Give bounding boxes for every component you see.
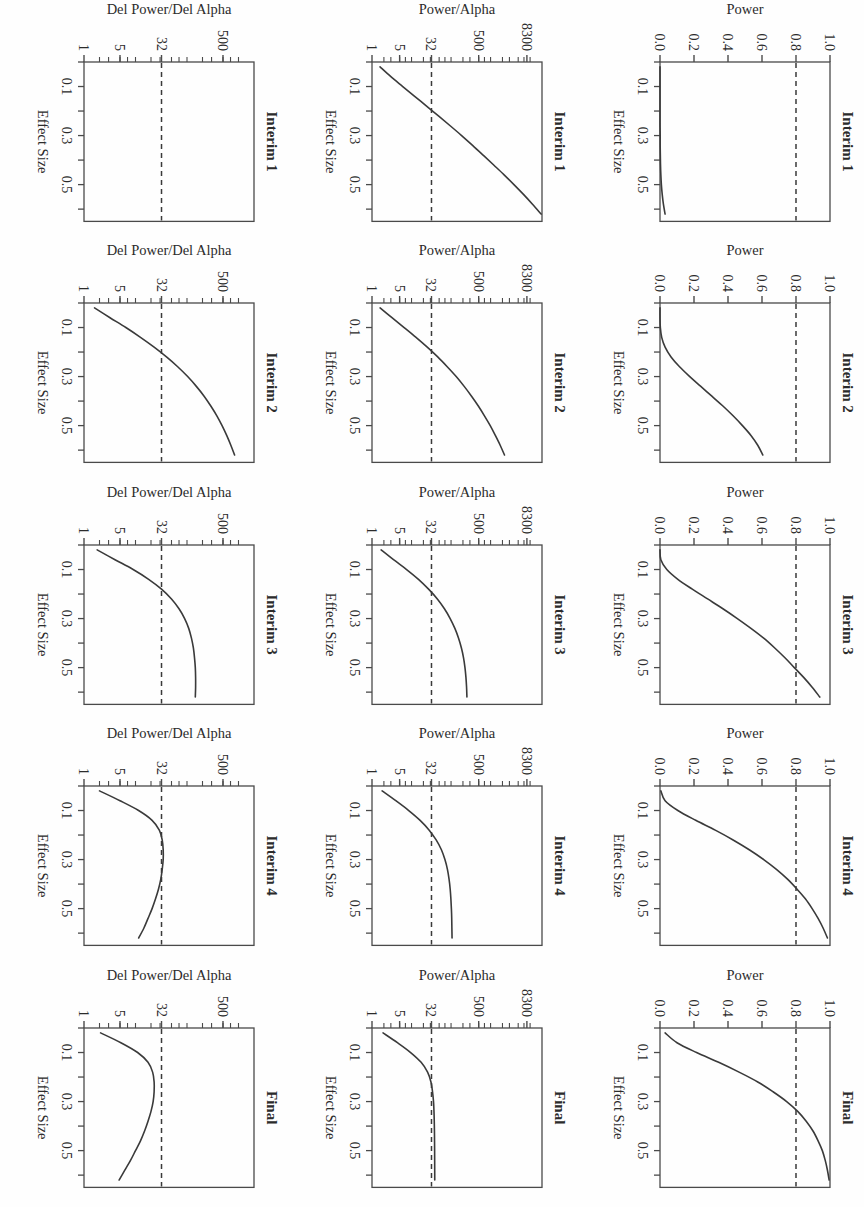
y-tick-label: 0.4	[720, 999, 735, 1016]
data-curve	[382, 791, 452, 938]
plot-frame	[84, 786, 254, 945]
y-tick-label: 0.0	[652, 275, 667, 292]
x-axis-label: Effect Size	[35, 593, 51, 657]
chart-panel: 0.10.30.51532500FinalEffect SizeDel Powe…	[0, 966, 288, 1207]
panel-title: Interim 1	[552, 112, 568, 172]
x-tick-label: 0.5	[635, 659, 650, 676]
panel-title: Interim 2	[552, 353, 568, 413]
y-tick-label: 32	[423, 278, 438, 292]
data-curve	[381, 550, 467, 697]
x-axis-label: Effect Size	[611, 110, 627, 174]
panel-row-1: 0.10.30.50.00.20.40.60.81.0Interim 1Effe…	[576, 0, 864, 1207]
y-tick-label: 0.0	[652, 516, 667, 533]
x-tick-label: 0.1	[59, 802, 74, 819]
plot-frame	[660, 303, 830, 462]
y-tick-label: 1	[364, 768, 379, 775]
plot-frame	[372, 62, 542, 221]
y-tick-label: 0.4	[720, 516, 735, 533]
chart-panel: 0.10.30.515325008300Interim 2Effect Size…	[288, 241, 576, 482]
chart-panel: 0.10.30.51532500Interim 3Effect SizeDel …	[0, 483, 288, 724]
plot-frame	[372, 545, 542, 704]
panel-title: Interim 1	[840, 112, 856, 172]
x-tick-label: 0.3	[635, 851, 650, 868]
x-tick-label: 0.1	[635, 1043, 650, 1060]
data-curve	[100, 791, 164, 938]
chart-panel: 0.10.30.51532500Interim 4Effect SizeDel …	[0, 724, 288, 965]
x-tick-label: 0.5	[347, 417, 362, 434]
panel-title: Interim 2	[840, 353, 856, 413]
chart-panel: 0.10.30.50.00.20.40.60.81.0Interim 4Effe…	[576, 724, 864, 965]
y-tick-label: 1	[76, 44, 91, 51]
y-axis-label: Del Power/Del Alpha	[107, 242, 232, 258]
panel-title: Interim 3	[840, 594, 856, 654]
y-tick-label: 8300	[519, 506, 534, 534]
panel-title: Interim 1	[264, 112, 280, 172]
plot-frame	[372, 303, 542, 462]
y-tick-label: 32	[154, 278, 169, 292]
x-tick-label: 0.3	[347, 127, 362, 144]
data-curve	[97, 550, 196, 697]
y-tick-label: 5	[112, 1010, 127, 1017]
x-axis-label: Effect Size	[323, 1075, 339, 1139]
chart-panel: 0.10.30.50.00.20.40.60.81.0Interim 2Effe…	[576, 241, 864, 482]
y-tick-label: 0.6	[754, 516, 769, 533]
plot-frame	[84, 62, 254, 221]
y-tick-label: 500	[215, 271, 230, 292]
y-tick-label: 0.8	[788, 34, 803, 51]
y-tick-label: 0.8	[788, 275, 803, 292]
y-tick-label: 32	[423, 1003, 438, 1017]
y-tick-label: 5	[392, 527, 407, 534]
y-tick-label: 0.8	[788, 516, 803, 533]
panel-row-2: 0.10.30.515325008300Interim 1Effect Size…	[288, 0, 576, 1207]
y-tick-label: 32	[154, 37, 169, 51]
y-tick-label: 8300	[519, 264, 534, 292]
y-tick-label: 32	[423, 37, 438, 51]
panel-grid: 0.10.30.50.00.20.40.60.81.0Interim 1Effe…	[0, 0, 864, 1207]
y-tick-label: 5	[392, 1010, 407, 1017]
y-tick-label: 0.6	[754, 275, 769, 292]
y-tick-label: 0.4	[720, 34, 735, 51]
x-tick-label: 0.5	[347, 1141, 362, 1158]
y-tick-label: 500	[215, 754, 230, 775]
x-tick-label: 0.3	[635, 1092, 650, 1109]
data-curve	[383, 1032, 435, 1179]
y-tick-label: 0.2	[686, 516, 701, 533]
y-tick-label: 1.0	[822, 516, 837, 533]
y-tick-label: 500	[471, 996, 486, 1017]
y-tick-label: 32	[154, 761, 169, 775]
x-tick-label: 0.3	[347, 368, 362, 385]
x-tick-label: 0.3	[635, 127, 650, 144]
y-tick-label: 0.2	[686, 275, 701, 292]
y-axis-label: Del Power/Del Alpha	[107, 967, 232, 983]
plot-frame	[372, 786, 542, 945]
chart-panel: 0.10.30.51532500Interim 2Effect SizeDel …	[0, 241, 288, 482]
y-tick-label: 500	[471, 271, 486, 292]
panel-title: Interim 3	[264, 594, 280, 654]
y-axis-label: Power/Alpha	[419, 242, 496, 258]
y-tick-label: 0.6	[754, 758, 769, 775]
y-tick-label: 1.0	[822, 34, 837, 51]
y-tick-label: 0.8	[788, 999, 803, 1016]
x-tick-label: 0.5	[59, 417, 74, 434]
y-tick-label: 0.6	[754, 999, 769, 1016]
chart-panel: 0.10.30.515325008300Interim 1Effect Size…	[288, 0, 576, 241]
x-tick-label: 0.3	[347, 851, 362, 868]
x-tick-label: 0.1	[347, 561, 362, 578]
panel-title: Final	[840, 1091, 856, 1124]
y-tick-label: 0.0	[652, 34, 667, 51]
x-tick-label: 0.5	[347, 176, 362, 193]
y-axis-label: Power/Alpha	[419, 1, 496, 17]
y-tick-label: 1	[76, 285, 91, 292]
x-axis-label: Effect Size	[611, 1075, 627, 1139]
data-curve	[95, 308, 235, 455]
y-axis-label: Power	[726, 725, 763, 741]
x-axis-label: Effect Size	[35, 1075, 51, 1139]
plot-frame	[660, 786, 830, 945]
x-tick-label: 0.1	[635, 561, 650, 578]
x-tick-label: 0.3	[59, 127, 74, 144]
plot-frame	[84, 545, 254, 704]
data-curve	[380, 308, 504, 455]
chart-panel: 0.10.30.50.00.20.40.60.81.0FinalEffect S…	[576, 966, 864, 1207]
panel-title: Final	[552, 1091, 568, 1124]
x-axis-label: Effect Size	[35, 351, 51, 415]
